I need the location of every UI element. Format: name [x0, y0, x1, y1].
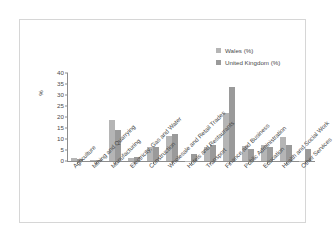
x-axis-labels: AgricultureMining and QuarryingManufactu… [67, 163, 315, 223]
bar-group [67, 73, 86, 161]
y-axis-tick-label: 15 [57, 125, 64, 131]
y-axis-label: % [37, 82, 44, 104]
y-axis-tick-label: 0 [61, 158, 64, 164]
legend-label-wales: Wales (%) [225, 47, 253, 54]
y-axis-tick-label: 5 [61, 147, 64, 153]
y-axis-tick-label: 40 [57, 70, 64, 76]
y-axis-tick-label: 25 [57, 103, 64, 109]
legend-item-wales: Wales (%) [216, 46, 280, 55]
chart-frame: Wales (%) United Kingdom (%) % 051015202… [19, 19, 306, 223]
legend-swatch-united-kingdom [216, 60, 221, 65]
y-axis-tick-label: 20 [57, 114, 64, 120]
legend-swatch-wales [216, 48, 221, 53]
y-axis-tick-label: 30 [57, 92, 64, 98]
legend-item-united-kingdom: United Kingdom (%) [216, 58, 280, 67]
chart-legend: Wales (%) United Kingdom (%) [216, 46, 280, 67]
y-axis-ticks: 0510152025303540 [49, 73, 67, 161]
y-axis-tick-label: 35 [57, 81, 64, 87]
y-axis-tick-label: 10 [57, 136, 64, 142]
legend-label-united-kingdom: United Kingdom (%) [225, 59, 280, 66]
